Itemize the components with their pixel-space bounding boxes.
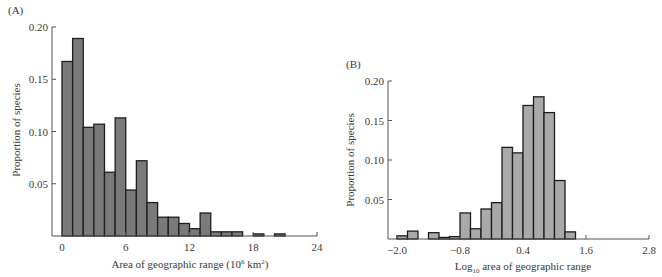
panel-b-bar bbox=[544, 113, 555, 239]
panel-a-y-tick-label: 0.20 bbox=[29, 21, 49, 33]
panel-a-bar bbox=[136, 161, 147, 236]
panel-b-y-axis-label: Proportion of species bbox=[344, 113, 356, 206]
panel-a-y-tick-label: 0.10 bbox=[29, 126, 49, 138]
panel-a-bar bbox=[179, 223, 190, 236]
panel-a-bar bbox=[115, 118, 126, 236]
panel-a-x-tick-label: 0 bbox=[59, 241, 65, 253]
panel-a-x-tick-label: 18 bbox=[248, 241, 260, 253]
panel-a-bar bbox=[221, 232, 232, 236]
panel-a-bar bbox=[158, 217, 169, 236]
panel-a-y-axis-label: Proportion of species bbox=[10, 83, 22, 176]
panel-b-bar bbox=[481, 209, 492, 239]
panel-b-y-tick-label: 0.20 bbox=[365, 75, 385, 87]
panel-a-bar bbox=[211, 232, 222, 236]
panel-b-x-tick-label: 2.8 bbox=[642, 244, 656, 256]
panel-a-bars bbox=[62, 38, 285, 236]
panel-a-bar bbox=[126, 190, 137, 236]
panel-b-x-tick-label: 1.6 bbox=[579, 244, 593, 256]
panel-b-y-tick-label: 0.05 bbox=[365, 194, 385, 206]
panel-b-bar bbox=[565, 232, 576, 239]
panel-b-bar bbox=[429, 233, 440, 239]
panel-a-x-tick-label: 6 bbox=[123, 241, 129, 253]
panel-a-bar bbox=[62, 61, 73, 236]
panel-a-bar bbox=[200, 213, 211, 236]
panel-a-label: (A) bbox=[8, 4, 24, 17]
panel-b-bars bbox=[397, 97, 576, 239]
panel-a-bar bbox=[83, 127, 94, 236]
panel-b-bar bbox=[555, 181, 566, 239]
panel-a-bar bbox=[147, 203, 158, 236]
panel-b-bar bbox=[408, 231, 419, 239]
panel-a-y-tick-label: 0.05 bbox=[29, 178, 49, 190]
panel-b-bar bbox=[502, 147, 513, 239]
panel-a-bar bbox=[105, 172, 116, 236]
panel-a-bar bbox=[73, 38, 84, 236]
panel-b-bar bbox=[460, 213, 471, 239]
panel-b-y-tick-label: 0.15 bbox=[365, 115, 385, 127]
panel-b-y-tick-label: 0.10 bbox=[365, 154, 385, 166]
panel-a-bar bbox=[190, 229, 201, 236]
figure-canvas: (A) Proportion of species 0.050.100.150.… bbox=[0, 0, 662, 277]
panel-a-bar bbox=[232, 232, 243, 236]
panel-a-y-tick-label: 0.15 bbox=[29, 73, 49, 85]
panel-b-bar bbox=[471, 229, 482, 239]
panel-a-x-tick-label: 12 bbox=[184, 241, 195, 253]
panel-b-x-axis-label: Log10 area of geographic range bbox=[455, 260, 592, 275]
panel-a-bar bbox=[94, 124, 105, 236]
panel-b-bar bbox=[492, 203, 503, 239]
panel-b-label: (B) bbox=[346, 58, 361, 71]
panel-a-bar bbox=[168, 217, 179, 236]
figure: (A) Proportion of species 0.050.100.150.… bbox=[0, 0, 662, 277]
panel-b-bar bbox=[534, 97, 545, 239]
panel-b-x-tick-label: −2.0 bbox=[387, 244, 407, 256]
panel-a-x-tick-label: 24 bbox=[312, 241, 324, 253]
panel-a-histogram: (A) Proportion of species 0.050.100.150.… bbox=[8, 4, 323, 271]
panel-b-x-tick-label: −0.8 bbox=[450, 244, 470, 256]
panel-a-x-axis-label: Area of geographic range (106 km2) bbox=[112, 258, 269, 271]
panel-b-x-tick-label: 0.4 bbox=[516, 244, 530, 256]
panel-b-bar bbox=[523, 105, 534, 239]
panel-b-bar bbox=[513, 153, 524, 239]
panel-b-histogram: (B) Proportion of species 0.050.100.150.… bbox=[344, 58, 656, 275]
